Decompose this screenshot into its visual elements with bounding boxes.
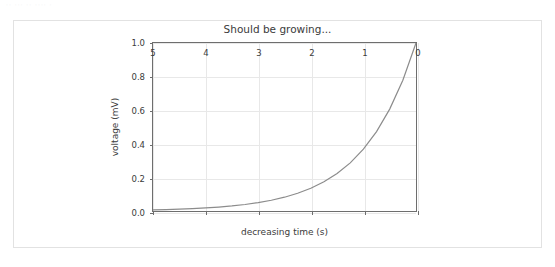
x-axis-label: decreasing time (s)	[152, 227, 417, 237]
chart-title: Should be growing...	[14, 23, 541, 35]
y-axis-label: voltage (mV)	[110, 42, 122, 212]
plot-area: 0.00.20.40.60.81.0 543210	[152, 42, 417, 212]
y-tick-label: 0.4	[131, 140, 145, 150]
x-gridline	[418, 43, 419, 211]
y-gridline	[153, 213, 416, 214]
data-curve-path	[153, 43, 416, 210]
x-tick-mark	[153, 211, 154, 215]
chart-card: Should be growing... 0.00.20.40.60.81.0 …	[13, 20, 542, 248]
x-tick-mark	[418, 211, 419, 215]
x-tick-mark	[206, 211, 207, 215]
x-tick-label: 0	[415, 48, 420, 58]
figure: Should be growing... 0.00.20.40.60.81.0 …	[14, 21, 541, 247]
y-tick-label: 0.2	[131, 174, 145, 184]
top-edge-artifact: ·· ··· ·· ···· ·	[0, 0, 555, 14]
y-tick-label: 0.8	[131, 72, 145, 82]
x-tick-mark	[365, 211, 366, 215]
y-tick-label: 0.6	[131, 106, 145, 116]
curve-svg	[153, 43, 416, 211]
y-tick-label: 1.0	[131, 38, 145, 48]
y-tick-label: 0.0	[131, 208, 145, 218]
top-artifact-ghost-text: ·· ··· ·· ···· ·	[6, 1, 53, 8]
x-tick-mark	[312, 211, 313, 215]
x-tick-mark	[259, 211, 260, 215]
